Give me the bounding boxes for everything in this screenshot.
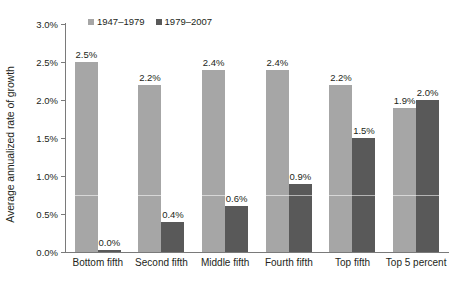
bar-series-2 (352, 138, 375, 252)
bar-series-2 (416, 100, 439, 252)
bar-value-label: 2.2% (330, 72, 352, 83)
y-tick-label: 1.5% (16, 133, 58, 144)
y-tick-mark (61, 252, 65, 253)
x-axis-label-4: Fourth fifth (265, 257, 313, 268)
bar-slot: 1.5% (352, 24, 375, 252)
bar-chart: Average annualized rate of growth 0.0%0.… (0, 0, 457, 289)
y-tick-mark (61, 62, 65, 63)
bar-series-1 (329, 85, 352, 252)
x-axis-line (65, 252, 449, 253)
bar-value-label: 2.4% (203, 57, 225, 68)
bar-slot: 2.4% (202, 24, 225, 252)
y-tick-label: 2.5% (16, 57, 58, 68)
y-tick-label: 0.0% (16, 247, 58, 258)
bar-group: 2.4%0.6% (193, 24, 257, 252)
bar-value-label: 1.5% (353, 125, 375, 136)
bar-slot: 2.2% (329, 24, 352, 252)
y-tick-label: 3.0% (16, 19, 58, 30)
bar-series-1 (138, 85, 161, 252)
bar-slot: 0.4% (161, 24, 184, 252)
bar-series-1 (266, 70, 289, 252)
x-axis-label-6: Top 5 percent (386, 257, 447, 268)
bar-series-1 (202, 70, 225, 252)
y-tick-mark (61, 214, 65, 215)
bar-value-label: 2.0% (417, 87, 439, 98)
bar-series-2 (161, 222, 184, 252)
bar-group: 2.2%1.5% (321, 24, 385, 252)
bar-slot: 0.0% (98, 24, 121, 252)
bar-slot: 2.5% (75, 24, 98, 252)
x-axis-label-5: Top fifth (335, 257, 370, 268)
bar-series-1 (75, 62, 98, 252)
bar-value-label: 2.4% (267, 57, 289, 68)
bar-value-label: 0.4% (162, 209, 184, 220)
y-tick-mark (61, 100, 65, 101)
bar-value-label: 2.2% (139, 72, 161, 83)
y-tick-mark (61, 24, 65, 25)
x-axis-label-3: Middle fifth (201, 257, 249, 268)
bar-slot: 0.6% (225, 24, 248, 252)
bar-series-1 (393, 108, 416, 252)
bar-series-2 (98, 250, 121, 252)
bar-slot: 2.2% (138, 24, 161, 252)
bar-group: 1.9%2.0% (384, 24, 448, 252)
x-axis-label-2: Second fifth (135, 257, 188, 268)
bar-group: 2.2%0.4% (130, 24, 194, 252)
y-tick-mark (61, 176, 65, 177)
bar-value-label: 1.9% (394, 95, 416, 106)
bar-slot: 2.0% (416, 24, 439, 252)
bar-value-label: 0.9% (290, 171, 312, 182)
y-tick-mark (61, 138, 65, 139)
y-tick-label: 1.0% (16, 171, 58, 182)
bar-group: 2.4%0.9% (257, 24, 321, 252)
x-axis-label-1: Bottom fifth (73, 257, 124, 268)
bar-value-label: 0.6% (226, 193, 248, 204)
bar-series-2 (225, 206, 248, 252)
plot-area: 2.5%0.0%2.2%0.4%2.4%0.6%2.4%0.9%2.2%1.5%… (66, 24, 448, 252)
bar-series-2 (289, 184, 312, 252)
y-tick-label: 2.0% (16, 95, 58, 106)
bar-slot: 2.4% (266, 24, 289, 252)
bar-group: 2.5%0.0% (66, 24, 130, 252)
bar-value-label: 0.0% (99, 237, 121, 248)
bar-slot: 1.9% (393, 24, 416, 252)
bar-slot: 0.9% (289, 24, 312, 252)
y-tick-label: 0.5% (16, 209, 58, 220)
bar-value-label: 2.5% (76, 49, 98, 60)
